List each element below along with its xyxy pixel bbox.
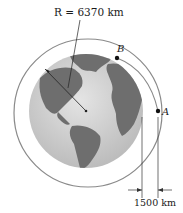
radius-label: R = 6370 km	[54, 6, 124, 18]
orbit-diagram: R = 6370 km B A 1500 km	[0, 0, 183, 213]
point-a-marker	[156, 109, 160, 113]
earth-center-dot	[85, 110, 88, 113]
altitude-label: 1500 km	[134, 197, 176, 208]
point-a-label: A	[161, 106, 169, 117]
arrow-left-icon	[158, 188, 163, 192]
point-b-label: B	[116, 43, 124, 54]
arrow-right-icon	[137, 188, 142, 192]
point-b-marker	[115, 56, 119, 60]
